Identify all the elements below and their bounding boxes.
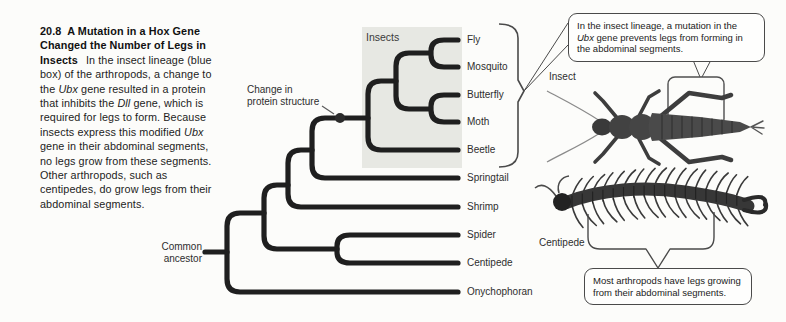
insect-callout-line3: the abdominal segments. — [577, 43, 756, 55]
common-ancestor-line2: ancestor — [148, 253, 202, 265]
mutation-dot — [335, 113, 345, 123]
figure-caption: 20.8 A Mutation in a Hox Gene Changed th… — [40, 24, 218, 211]
tip-label-springtail: Springtail — [467, 172, 509, 184]
tip-label-onychophoran: Onychophoran — [467, 286, 533, 298]
figure-20-8: 20.8 A Mutation in a Hox Gene Changed th… — [0, 0, 786, 322]
caption-gene-ubx-1: Ubx — [58, 83, 78, 95]
insect-callout-gene: Ubx — [577, 32, 594, 43]
insect-specimen-label: Insect — [549, 71, 576, 83]
insect-illustration — [547, 91, 764, 164]
insect-callout-line2-rest: gene prevents legs from forming in — [594, 32, 743, 43]
common-ancestor-line1: Common — [148, 241, 202, 253]
common-ancestor-label: Common ancestor — [148, 241, 202, 265]
tip-label-fly: Fly — [467, 34, 480, 46]
caption-gene-ubx-2: Ubx — [184, 126, 204, 138]
insect-callout-line1: In the insect lineage, a mutation in the — [577, 20, 756, 32]
tip-label-centipede: Centipede — [467, 257, 513, 269]
centipede-bracket — [588, 212, 714, 268]
tip-label-moth: Moth — [467, 116, 489, 128]
insects-clade-label: Insects — [366, 31, 399, 43]
abdomen-pointer — [693, 60, 711, 77]
tip-label-mosquito: Mosquito — [467, 61, 508, 73]
mutation-label-line2: protein structure — [247, 96, 319, 108]
centipede-illustration — [535, 168, 766, 228]
caption-number: 20.8 — [40, 25, 61, 37]
mutation-pointer-line — [322, 106, 334, 114]
insect-callout: In the insect lineage, a mutation in the… — [568, 13, 765, 62]
branch-spider-centipede — [337, 235, 458, 263]
centipede-callout-line2: from their abdominal segments. — [593, 287, 743, 299]
caption-body-4: gene in their abdominal segments, no leg… — [40, 140, 212, 210]
insect-callout-line2: Ubx gene prevents legs from forming in — [577, 32, 756, 44]
tip-label-spider: Spider — [467, 229, 496, 241]
mutation-label: Change in protein structure — [247, 84, 319, 108]
branch-arthropod-node — [264, 185, 337, 249]
centipede-callout: Most arthropods have legs growing from t… — [584, 268, 752, 305]
tip-label-butterfly: Butterfly — [467, 89, 504, 101]
centipede-specimen-label: Centipede — [539, 237, 585, 249]
tip-label-beetle: Beetle — [467, 144, 495, 156]
centipede-callout-line1: Most arthropods have legs growing — [593, 275, 743, 287]
caption-gene-dll: Dll — [117, 97, 130, 109]
tip-label-shrimp: Shrimp — [467, 201, 499, 213]
mutation-label-line1: Change in — [247, 84, 319, 96]
